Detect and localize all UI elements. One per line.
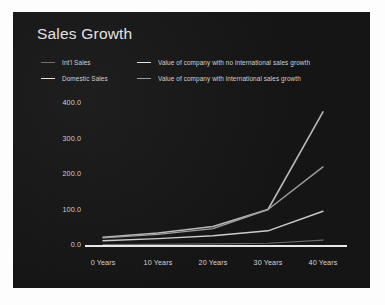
x-axis-tick-label: 20 Years xyxy=(187,258,239,267)
x-axis-tick-label: 10 Years xyxy=(132,258,184,267)
y-axis-tick-label: 300.0 xyxy=(39,134,81,143)
x-axis-tick-label: 30 Years xyxy=(242,258,294,267)
screenshot-root: Sales Growth Int'l Sales Value of compan… xyxy=(0,0,385,305)
y-axis-tick-label: 100.0 xyxy=(39,205,81,214)
plot-area: 400.0300.0200.0100.00.00 Years10 Years20… xyxy=(13,12,370,288)
y-axis-tick-label: 200.0 xyxy=(39,169,81,178)
chart-panel: Sales Growth Int'l Sales Value of compan… xyxy=(13,12,370,288)
y-axis-tick-label: 0.0 xyxy=(39,240,81,249)
y-axis-tick-label: 400.0 xyxy=(39,98,81,107)
series-line xyxy=(103,240,323,245)
x-axis-tick-label: 40 Years xyxy=(297,258,349,267)
x-axis-tick-label: 0 Years xyxy=(77,258,129,267)
series-line xyxy=(103,112,323,237)
